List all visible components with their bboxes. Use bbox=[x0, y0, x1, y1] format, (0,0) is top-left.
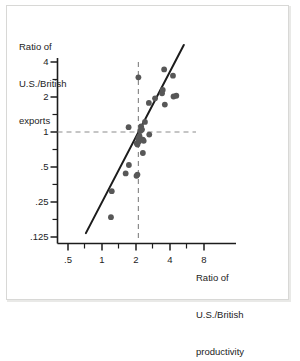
axis-lines bbox=[58, 58, 237, 244]
data-point bbox=[109, 188, 115, 194]
data-point bbox=[123, 171, 129, 177]
data-point bbox=[162, 102, 168, 108]
data-point bbox=[146, 100, 152, 106]
x-tick-label: 8 bbox=[193, 254, 215, 265]
data-point bbox=[146, 132, 152, 138]
y-tick-label: .125 bbox=[15, 231, 49, 242]
x-axis-title-line-3: productivity bbox=[196, 346, 244, 358]
data-point bbox=[142, 119, 148, 125]
data-point bbox=[141, 138, 147, 144]
x-axis-title-line-1: Ratio of bbox=[196, 272, 244, 284]
data-point bbox=[108, 214, 114, 220]
data-point bbox=[135, 172, 141, 178]
data-point bbox=[140, 150, 146, 156]
data-points bbox=[108, 67, 179, 221]
data-point bbox=[135, 74, 141, 80]
fit-line bbox=[86, 45, 184, 233]
x-axis-title-line-2: U.S./British bbox=[196, 309, 244, 321]
data-point bbox=[160, 87, 166, 93]
y-tick-label: 1 bbox=[15, 126, 49, 137]
y-tick-label: .5 bbox=[15, 161, 49, 172]
y-tick-label: 4 bbox=[15, 56, 49, 67]
data-point bbox=[152, 95, 158, 101]
y-tick-label: 2 bbox=[15, 91, 49, 102]
data-point bbox=[126, 162, 132, 168]
y-tick-label: .25 bbox=[15, 196, 49, 207]
data-point bbox=[170, 73, 176, 79]
reference-lines bbox=[58, 62, 197, 242]
data-point bbox=[161, 67, 167, 73]
y-axis-title-line-2: U.S./British bbox=[19, 78, 67, 90]
regression-line bbox=[86, 45, 184, 233]
data-point bbox=[139, 127, 145, 133]
data-point bbox=[173, 93, 179, 99]
tick-marks bbox=[51, 62, 205, 251]
data-point bbox=[126, 124, 132, 130]
x-tick-label: 2 bbox=[125, 254, 147, 265]
y-axis-title-line-1: Ratio of bbox=[19, 41, 67, 53]
x-tick-label: .5 bbox=[57, 254, 79, 265]
x-tick-label: 4 bbox=[159, 254, 181, 265]
x-tick-label: 1 bbox=[91, 254, 113, 265]
